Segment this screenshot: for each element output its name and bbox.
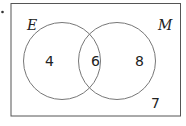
set-e-label: E	[26, 17, 37, 33]
e-only-value: 4	[45, 53, 54, 69]
m-only-value: 8	[135, 53, 144, 69]
outside-value: 7	[151, 95, 160, 111]
bullet-dot	[1, 11, 4, 14]
intersection-value: 6	[91, 53, 100, 69]
set-m-label: M	[157, 17, 173, 33]
venn-diagram: E M 4 6 8 7	[0, 0, 186, 126]
